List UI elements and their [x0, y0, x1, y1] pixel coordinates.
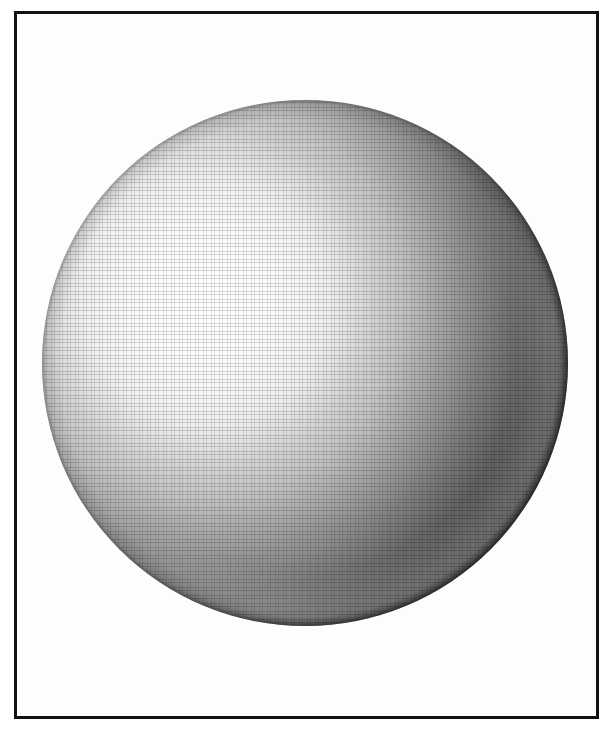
figure-frame	[14, 11, 599, 719]
sphere-limb-shade	[42, 100, 568, 626]
figure-page	[0, 0, 606, 730]
figure-plate	[17, 14, 596, 716]
sphere-illustration	[17, 14, 596, 716]
sphere-stage	[17, 14, 596, 716]
